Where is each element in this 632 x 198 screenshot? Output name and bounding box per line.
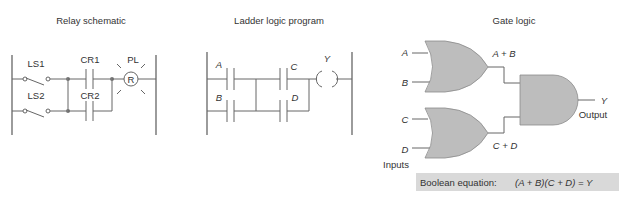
equation-text: (A + B)(C + D) = Y <box>515 177 593 188</box>
inputs-label: Inputs <box>383 159 409 170</box>
limit-switch-ls2-icon <box>12 109 68 117</box>
limit-switch-ls1-icon <box>12 77 68 85</box>
input-a-label: A <box>401 47 408 58</box>
or-gate-1-icon <box>412 41 488 92</box>
ladder-logic-title: Ladder logic program <box>234 15 324 26</box>
input-b-label: B <box>402 77 409 88</box>
pl-label: PL <box>127 54 139 65</box>
contact-a-icon <box>207 68 256 90</box>
wire-or1-to-and <box>488 67 520 83</box>
output-coil-y-icon <box>316 71 337 87</box>
contact-a-label: A <box>215 59 222 70</box>
ls1-label: LS1 <box>28 58 45 69</box>
or2-output-label: C + D <box>493 140 518 151</box>
contact-d-icon <box>256 100 309 122</box>
relay-schematic: Relay schematic LS1 LS2 <box>12 15 156 135</box>
cr2-label: CR2 <box>80 90 99 101</box>
contact-b-icon <box>207 100 256 122</box>
wire-or2-to-and <box>488 117 520 133</box>
gate-logic: Gate logic A B A + B C D C + D Inputs Y … <box>383 15 619 191</box>
cr1-label: CR1 <box>80 54 99 65</box>
contact-b-label: B <box>216 92 223 103</box>
contact-c-icon <box>256 68 309 90</box>
lamp-color-label: R <box>128 74 135 85</box>
logic-equivalence-diagram: Relay schematic LS1 LS2 <box>0 0 632 198</box>
contact-c-label: C <box>291 61 298 72</box>
or-gate-2-icon <box>412 108 488 158</box>
gate-logic-title: Gate logic <box>493 15 536 26</box>
ls2-label: LS2 <box>28 90 45 101</box>
relay-contact-cr1-icon <box>68 69 112 89</box>
relay-schematic-title: Relay schematic <box>56 15 126 26</box>
output-y-label: Y <box>601 95 608 106</box>
ladder-logic-program: Ladder logic program A B C <box>207 15 352 135</box>
output-label: Output <box>579 109 608 120</box>
equation-label: Boolean equation: <box>420 177 497 188</box>
contact-d-label: D <box>292 92 299 103</box>
input-c-label: C <box>402 114 409 125</box>
coil-y-label: Y <box>324 53 331 64</box>
relay-contact-cr2-icon <box>68 101 112 121</box>
or1-output-label: A + B <box>491 48 516 59</box>
input-d-label: D <box>402 144 409 155</box>
